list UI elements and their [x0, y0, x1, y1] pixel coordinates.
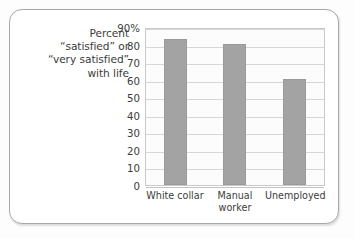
- x-axis-category-labels: White collarManualworkerUnemployed: [145, 190, 325, 213]
- y-axis-tick-label: 70: [127, 58, 140, 69]
- bar-group: [146, 29, 324, 185]
- y-axis-tick-labels: 90%80706050403020100: [105, 28, 143, 186]
- bar-slot: [205, 29, 264, 185]
- x-axis-category-label-line: worker: [205, 202, 265, 214]
- y-axis-tick-label: 20: [127, 145, 140, 156]
- bar-chart-figure: Percent “satisfied” or “very satisfied” …: [10, 10, 340, 225]
- x-axis-category-label-line: White collar: [145, 190, 205, 202]
- bar-slot: [146, 29, 205, 185]
- bar-slot: [265, 29, 324, 185]
- gridline: [146, 187, 324, 188]
- plot-area: [145, 28, 325, 186]
- y-axis-tick-label: 60: [127, 75, 140, 86]
- y-axis-tick-label: 90%: [117, 23, 140, 34]
- screenshot-root: Percent “satisfied” or “very satisfied” …: [0, 0, 354, 239]
- y-axis-tick-label: 50: [127, 93, 140, 104]
- y-axis-tick-label: 10: [127, 163, 140, 174]
- x-axis-category-label: White collar: [145, 190, 205, 213]
- x-axis-category-label-line: Manual: [205, 190, 265, 202]
- x-axis-category-label: Unemployed: [265, 190, 325, 213]
- x-axis-category-label: Manualworker: [205, 190, 265, 213]
- chart-card: Percent “satisfied” or “very satisfied” …: [9, 9, 339, 224]
- y-axis-tick-label: 80: [127, 40, 140, 51]
- x-axis-category-label-line: Unemployed: [265, 190, 325, 202]
- bar[interactable]: [283, 79, 306, 185]
- bar[interactable]: [223, 44, 246, 185]
- y-axis-tick-label: 40: [127, 110, 140, 121]
- bar[interactable]: [164, 39, 187, 185]
- y-axis-tick-label: 30: [127, 128, 140, 139]
- y-axis-tick-label: 0: [134, 181, 140, 192]
